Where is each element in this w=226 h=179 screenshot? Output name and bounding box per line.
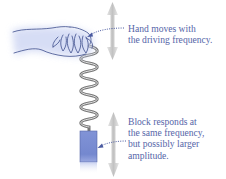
- block-annotation: Block responds at the same frequency, bu…: [128, 116, 204, 161]
- hand-annotation-line: Hand moves with: [128, 23, 212, 34]
- hand-annotation-line: the driving frequency.: [128, 34, 212, 45]
- block-annotation-line: the same frequency,: [128, 127, 204, 138]
- hand-pointer-arrow-icon: [87, 28, 124, 37]
- hand-annotation: Hand moves with the driving frequency.: [128, 23, 212, 45]
- hand-icon: [12, 27, 93, 57]
- spring-icon: [81, 46, 98, 131]
- top-double-arrow-icon: [107, 2, 118, 60]
- bottom-double-arrow-icon: [108, 112, 119, 177]
- block-annotation-line: Block responds at: [128, 116, 204, 127]
- block-annotation-line: amplitude.: [128, 150, 204, 161]
- block-annotation-line: but possibly larger: [128, 138, 204, 149]
- block-icon: [80, 131, 97, 174]
